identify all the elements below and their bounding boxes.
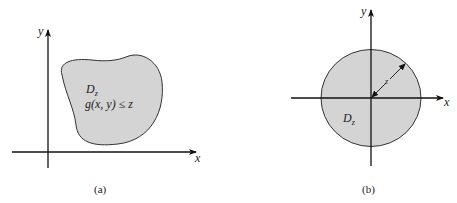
- figure-canvas: y x Dz g(x, y) ≤ z (a) z y x Dz (b): [0, 0, 457, 203]
- x-axis-label: x: [194, 151, 201, 165]
- figure-a: y x Dz g(x, y) ≤ z (a): [12, 24, 201, 196]
- caption-a: (a): [94, 183, 107, 196]
- figure-b: z y x Dz (b): [291, 4, 450, 196]
- y-axis-label: y: [37, 24, 44, 38]
- x-axis-label: x: [443, 95, 450, 109]
- y-axis-label: y: [360, 4, 367, 18]
- caption-b: (b): [362, 183, 375, 196]
- condition-label: g(x, y) ≤ z: [85, 97, 133, 111]
